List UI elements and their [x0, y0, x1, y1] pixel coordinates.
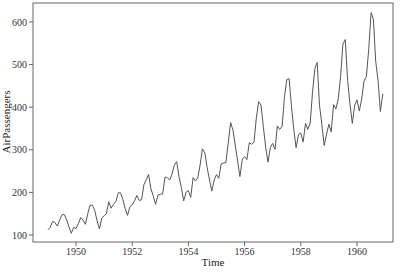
- plot-frame: [33, 3, 393, 242]
- y-tick-label: 200: [12, 187, 27, 198]
- x-axis: 195019521954195619581960: [66, 242, 367, 257]
- x-axis-title: Time: [202, 256, 225, 268]
- x-tick-label: 1958: [291, 246, 311, 257]
- x-tick-label: 1960: [347, 246, 367, 257]
- y-axis-title: AirPassengers: [0, 91, 12, 154]
- airpassengers-chart: 100200300400500600 195019521954195619581…: [0, 0, 400, 278]
- airpassengers-line: [48, 13, 383, 234]
- y-tick-label: 500: [12, 59, 27, 70]
- x-tick-label: 1952: [122, 246, 142, 257]
- y-tick-label: 400: [12, 102, 27, 113]
- y-tick-label: 100: [12, 230, 27, 241]
- y-axis: 100200300400500600: [12, 17, 33, 241]
- y-tick-label: 300: [12, 144, 27, 155]
- y-tick-label: 600: [12, 17, 27, 28]
- x-tick-label: 1956: [235, 246, 255, 257]
- x-tick-label: 1950: [66, 246, 86, 257]
- x-tick-label: 1954: [178, 246, 198, 257]
